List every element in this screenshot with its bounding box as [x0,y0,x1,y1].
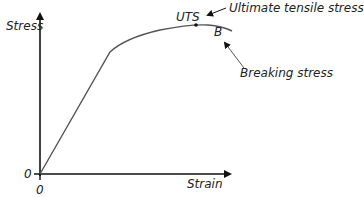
x-origin-label: 0 [36,184,44,196]
stress-strain-curve [40,25,232,174]
y-axis-label: Stress [6,20,43,32]
uts-annotation: Ultimate tensile stress [229,2,364,14]
breaking-arrow [225,43,244,68]
breaking-point-label: B [214,26,222,38]
x-axis-label: Strain [187,178,223,190]
y-origin-label: 0 [24,168,32,180]
uts-arrow [208,8,226,15]
breaking-annotation: Breaking stress [240,67,333,79]
uts-label: UTS [176,11,200,23]
